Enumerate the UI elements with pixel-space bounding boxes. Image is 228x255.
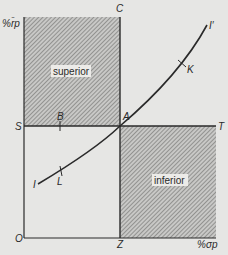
curve-start-label: I <box>33 179 36 190</box>
point-t-label: T <box>218 121 225 132</box>
point-z-label: Z <box>116 239 124 250</box>
origin-label: O <box>15 233 23 244</box>
y-axis-label: %r̄p <box>2 17 20 29</box>
superior-label: superior <box>53 66 90 77</box>
inferior-label: inferior <box>154 175 185 186</box>
x-axis-label: %σp <box>197 239 218 250</box>
point-s-label: S <box>15 121 22 132</box>
point-c-label: C <box>116 3 124 14</box>
point-b-label: B <box>57 111 64 122</box>
point-k-label: K <box>187 64 195 75</box>
point-l-label: L <box>57 176 63 187</box>
curve-end-label: I′ <box>209 20 215 31</box>
point-a-label: A <box>122 111 130 122</box>
indifference-diagram: superior inferior %r̄p %σp O C S T Z A B… <box>0 0 228 255</box>
